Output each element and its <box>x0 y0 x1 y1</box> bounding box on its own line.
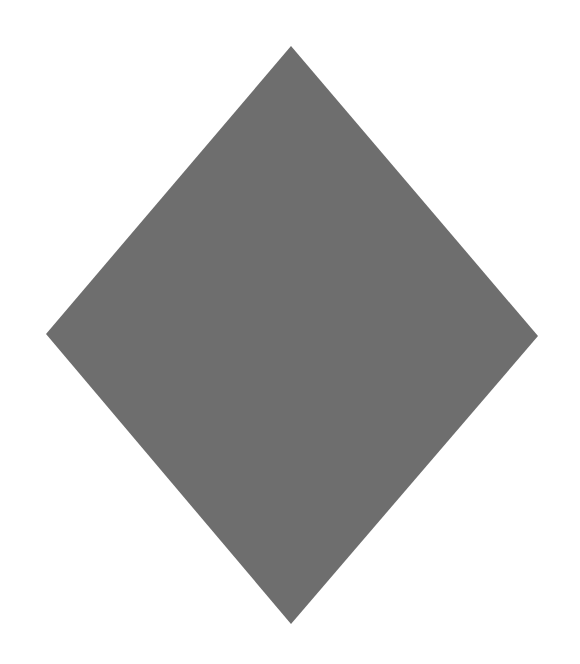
canvas <box>0 0 580 664</box>
